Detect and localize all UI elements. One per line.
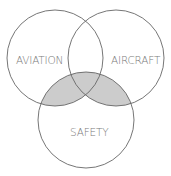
label-aircraft: AIRCRAFT bbox=[111, 54, 161, 66]
label-safety: SAFETY bbox=[70, 126, 109, 138]
venn-diagram: AVIATION AIRCRAFT SAFETY bbox=[0, 0, 171, 176]
label-aviation: AVIATION bbox=[16, 54, 63, 66]
